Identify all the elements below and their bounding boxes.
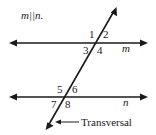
transversal-line: [46, 7, 118, 130]
angle-3-label: 3: [83, 44, 89, 56]
line-n-right-arrowhead-icon: [140, 94, 148, 101]
line-m-label: m: [122, 42, 130, 54]
angle-6-label: 6: [72, 83, 78, 95]
left-arrow-icon: [55, 120, 61, 125]
line-m-right-arrowhead-icon: [140, 40, 148, 47]
angle-8-label: 8: [65, 98, 71, 110]
angle-4-label: 4: [97, 44, 103, 56]
line-m-left-arrowhead-icon: [9, 40, 17, 47]
angle-2-label: 2: [103, 28, 109, 40]
line-n-left-arrowhead-icon: [9, 94, 17, 101]
angle-1-label: 1: [89, 28, 95, 40]
transversal-callout-label: Transversal: [81, 116, 132, 128]
line-n-label: n: [123, 96, 129, 108]
angle-5-label: 5: [57, 83, 63, 95]
parallel-lines-transversal-diagram: m||n. m n 1 2 3 4 5 6 7 8 Transversal: [0, 0, 156, 135]
transversal-callout: [55, 120, 79, 125]
given-statement: m||n.: [21, 9, 43, 21]
angle-7-label: 7: [51, 98, 57, 110]
